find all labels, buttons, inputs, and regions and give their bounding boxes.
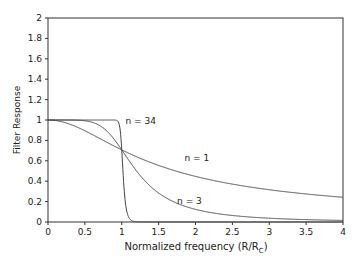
curve-annotations: n = 34n = 1n = 3 [125, 116, 209, 206]
curve-label: n = 3 [177, 196, 202, 206]
x-axis: 00.511.522.533.54 [45, 222, 346, 237]
curve-label: n = 34 [125, 116, 156, 126]
y-tick-label: 0.8 [28, 135, 43, 145]
y-tick-label: 1.2 [28, 95, 42, 105]
x-tick-label: 3.5 [299, 227, 313, 237]
y-tick-label: 1.8 [28, 33, 43, 43]
y-tick-label: 0.4 [28, 176, 43, 186]
y-tick-label: 0 [36, 217, 42, 227]
x-tick-label: 2 [193, 227, 199, 237]
x-tick-label: 1 [119, 227, 125, 237]
y-tick-label: 1.4 [28, 74, 43, 84]
x-tick-label: 2.5 [225, 227, 239, 237]
x-tick-label: 4 [340, 227, 346, 237]
y-tick-label: 1 [36, 115, 42, 125]
y-tick-label: 2 [36, 13, 42, 23]
y-axis-label: Filter Response [12, 85, 22, 154]
filter-response-chart: 00.20.40.60.811.21.41.61.82 00.511.522.5… [0, 0, 362, 266]
y-axis: 00.20.40.60.811.21.41.61.82 [28, 13, 48, 227]
y-tick-label: 0.2 [28, 197, 42, 207]
x-axis-label: Normalized frequency (R/RC) [124, 241, 267, 255]
curve-label: n = 1 [184, 153, 209, 163]
x-tick-label: 1.5 [151, 227, 165, 237]
x-tick-label: 0.5 [78, 227, 92, 237]
x-tick-label: 3 [266, 227, 272, 237]
series-curves [48, 120, 343, 222]
y-tick-label: 1.6 [28, 54, 43, 64]
curve-n-34 [48, 120, 343, 222]
y-tick-label: 0.6 [28, 156, 43, 166]
x-tick-label: 0 [45, 227, 51, 237]
